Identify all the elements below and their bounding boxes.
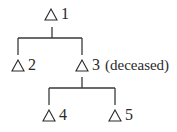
node-2: 2 bbox=[11, 57, 36, 73]
edges-from-node-1 bbox=[18, 27, 82, 55]
node-1: 1 bbox=[44, 6, 69, 22]
node-label: 5 bbox=[125, 107, 133, 123]
node-4: 4 bbox=[42, 107, 67, 123]
triangle-icon bbox=[44, 8, 58, 21]
node-label: 2 bbox=[28, 57, 36, 73]
deceased-note: (deceased) bbox=[105, 57, 169, 73]
edges-from-node-3 bbox=[49, 77, 115, 105]
triangle-icon bbox=[75, 59, 89, 72]
node-3: 3 (deceased) bbox=[75, 57, 169, 73]
node-5: 5 bbox=[108, 107, 133, 123]
triangle-icon bbox=[42, 109, 56, 122]
node-label: 3 bbox=[92, 57, 100, 73]
node-label: 1 bbox=[61, 6, 69, 22]
triangle-icon bbox=[108, 109, 122, 122]
triangle-icon bbox=[11, 59, 25, 72]
node-label: 4 bbox=[59, 107, 67, 123]
